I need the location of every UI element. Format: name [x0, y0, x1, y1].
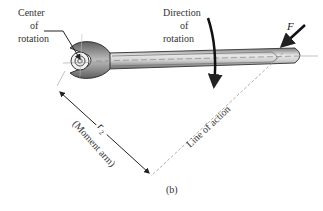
caption: (b) [166, 184, 178, 196]
line-of-action-label: Line of action [184, 103, 233, 149]
moment-arm-label: (Moment arm) [70, 118, 118, 170]
center-label-1: Center [18, 7, 45, 18]
direction-label-2: of [180, 20, 189, 31]
nut-icon [71, 52, 89, 70]
center-label-2: of [30, 20, 39, 31]
direction-label-3: rotation [163, 33, 194, 44]
force-label: F [286, 20, 294, 32]
wrench-moment-diagram: Center of rotation Direction of rotation… [0, 0, 323, 211]
center-label-3: rotation [18, 33, 49, 44]
direction-label-1: Direction [163, 7, 201, 18]
